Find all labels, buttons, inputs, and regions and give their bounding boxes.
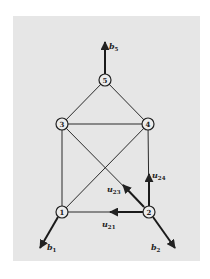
u24-label: u24 [152,170,166,181]
truss-diagram: 1 2 3 4 5 b5 b1 b2 u21 u23 u24 [0,0,210,279]
u23-label: u23 [107,184,121,195]
node-2-label: 2 [147,208,152,217]
edge-3-5 [62,80,105,124]
edge-4-5 [105,80,148,124]
node-2: 2 [143,206,155,218]
node-4-label: 4 [146,120,151,129]
edges [62,80,149,212]
node-4: 4 [142,118,154,130]
node-5: 5 [99,74,111,86]
node-3: 3 [56,118,68,130]
u23-arrow [123,185,144,207]
node-1-label: 1 [60,208,65,217]
node-1: 1 [56,206,68,218]
u21-label: u21 [102,219,116,230]
node-5-label: 5 [103,76,108,85]
nodes: 1 2 3 4 5 [56,74,155,218]
node-3-label: 3 [60,120,65,129]
b2-label: b2 [151,242,161,253]
b5-label: b5 [109,41,119,52]
b1-label: b1 [47,242,57,253]
